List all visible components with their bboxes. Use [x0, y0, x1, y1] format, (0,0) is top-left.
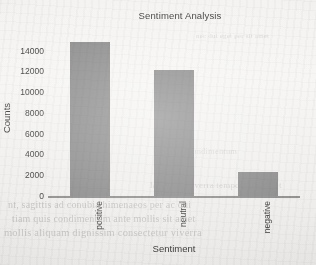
- bar-chart-figure: Sentiment Analysis 140001200010000800060…: [0, 0, 316, 265]
- y-tick-label: 6000: [25, 129, 44, 139]
- bar-negative[interactable]: [238, 172, 278, 196]
- y-tick-label: 0: [39, 191, 44, 201]
- chart-title-text: Sentiment Analysis: [95, 10, 222, 21]
- bar-positive[interactable]: [70, 42, 110, 196]
- x-tick-label-negative: negative: [262, 201, 272, 233]
- y-tick-label: 10000: [20, 87, 44, 97]
- x-axis-label: Sentiment: [48, 243, 300, 254]
- x-axis-line: [48, 196, 300, 198]
- y-tick-label: 4000: [25, 149, 44, 159]
- y-tick-label: 8000: [25, 108, 44, 118]
- plot-area: [48, 36, 300, 196]
- y-tick-label: 14000: [20, 46, 44, 56]
- y-tick-label: 2000: [25, 170, 44, 180]
- bar-neutral[interactable]: [154, 70, 194, 196]
- y-axis-label: Counts: [1, 103, 12, 133]
- chart-title: Sentiment Analysis: [0, 10, 316, 21]
- x-tick-label-neutral: neutral: [178, 201, 188, 227]
- scanned-page: nec dui eget per sit amet urna condiment…: [0, 0, 316, 265]
- y-tick-label: 12000: [20, 66, 44, 76]
- x-tick-label-positive: positive: [94, 201, 104, 230]
